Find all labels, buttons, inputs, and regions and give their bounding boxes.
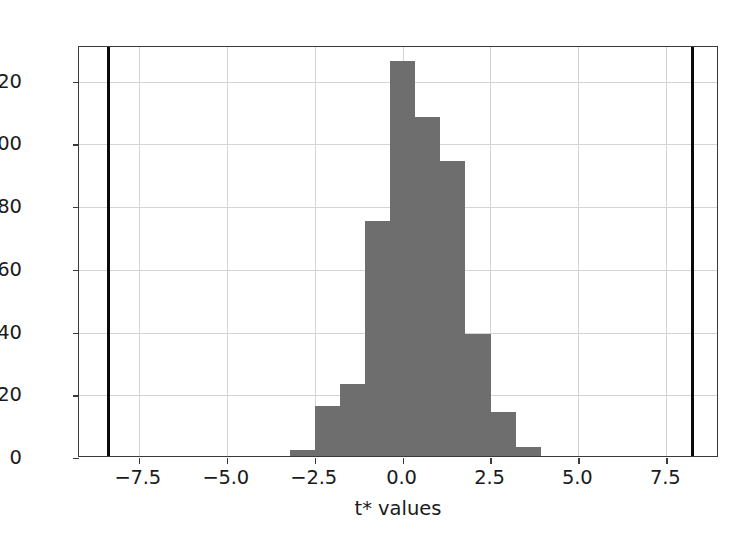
x-tick-label: −2.5 (290, 466, 337, 489)
x-axis-label: t* values (78, 497, 718, 520)
x-tick (490, 458, 491, 464)
y-tick (73, 82, 79, 83)
x-tick-label: 7.5 (650, 466, 680, 489)
y-tick (73, 395, 79, 396)
x-tick (403, 458, 404, 464)
y-tick (73, 207, 79, 208)
x-tick-label: −7.5 (114, 466, 161, 489)
plot-area (78, 46, 718, 457)
y-tick (73, 144, 79, 145)
x-tick-label: 0.0 (386, 466, 416, 489)
x-tick (578, 458, 579, 464)
y-tick-label: 0 (10, 446, 22, 469)
histogram-bar (365, 221, 390, 456)
histogram-figure: −7.5−5.0−2.50.02.55.07.5020406080100120 … (0, 0, 750, 541)
y-tick (73, 458, 79, 459)
y-tick (73, 270, 79, 271)
histogram-bar (515, 447, 540, 456)
histogram-bar (465, 334, 490, 456)
histogram-bars (79, 47, 717, 456)
y-tick-label: 20 (0, 383, 22, 406)
x-tick (139, 458, 140, 464)
histogram-bar (390, 61, 415, 456)
x-tick (315, 458, 316, 464)
histogram-bar (440, 161, 465, 456)
x-tick-label: 2.5 (474, 466, 504, 489)
observed-t-negative-line (107, 47, 110, 456)
y-tick-label: 40 (0, 320, 22, 343)
y-tick-label: 100 (0, 132, 22, 155)
y-tick-label: 80 (0, 195, 22, 218)
x-tick (227, 458, 228, 464)
histogram-bar (340, 384, 365, 456)
histogram-bar (490, 412, 515, 456)
x-tick (666, 458, 667, 464)
x-tick-label: 5.0 (562, 466, 592, 489)
y-tick-label: 60 (0, 257, 22, 280)
histogram-bar (415, 117, 440, 456)
y-tick-label: 120 (0, 69, 22, 92)
y-tick (73, 333, 79, 334)
histogram-bar (315, 406, 340, 456)
x-tick-label: −5.0 (202, 466, 249, 489)
histogram-bar (290, 450, 315, 456)
observed-t-positive-line (691, 47, 694, 456)
